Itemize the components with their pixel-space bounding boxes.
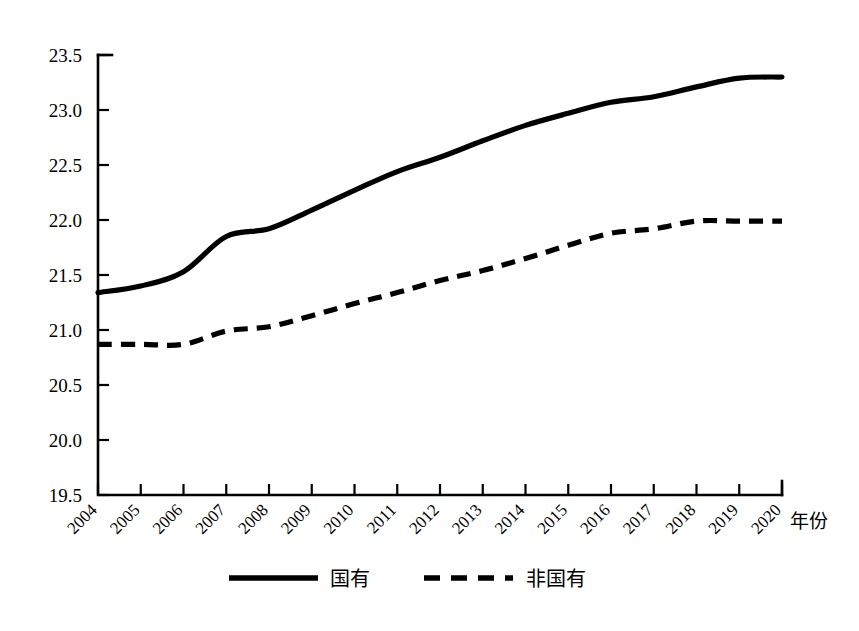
y-axis-tick-labels: 19.520.020.521.021.522.022.523.023.5 [49,45,82,506]
x-tick-label: 2014 [491,500,529,538]
x-axis-title: 年份 [790,511,828,532]
x-tick-label: 2019 [705,500,742,537]
y-tick-label: 23.5 [49,45,82,66]
x-tick-label: 2018 [662,500,699,537]
series-line-non-state-owned [98,221,782,346]
x-tick-label: 2007 [192,500,230,538]
y-tick-label: 23.0 [49,100,82,121]
x-tick-label: 2017 [619,500,657,538]
y-tick-label: 21.0 [49,320,82,341]
y-tick-label: 20.0 [49,430,82,451]
x-tick-label: 2013 [448,500,485,537]
x-tick-label: 2016 [576,500,613,537]
x-tick-label: 2020 [747,500,784,537]
y-tick-label: 21.5 [49,265,82,286]
line-chart-figure: 19.520.020.521.021.522.022.523.023.5 200… [0,0,859,631]
legend-label-non-state-owned: 非国有 [526,568,586,590]
x-tick-label: 2012 [405,500,442,537]
x-tick-label: 2005 [106,500,143,537]
x-tick-label: 2015 [534,500,571,537]
series-line-state-owned [98,77,782,293]
x-tick-label: 2006 [149,500,186,537]
x-tick-label: 2011 [363,500,400,537]
y-axis-ticks [98,55,109,495]
axis-frame-path [98,55,782,495]
chart-canvas: 19.520.020.521.021.522.022.523.023.5 200… [0,0,859,631]
y-tick-label: 19.5 [49,485,82,506]
x-axis-ticks [98,484,782,495]
y-tick-label: 22.0 [49,210,82,231]
x-axis-tick-labels: 2004200520062007200820092010201120122013… [63,500,784,538]
legend-label-state-owned: 国有 [330,568,370,590]
y-tick-label: 22.5 [49,155,82,176]
data-series-group [98,77,782,345]
x-tick-label: 2009 [277,500,314,537]
chart-legend: 国有 非国有 [229,568,586,590]
x-tick-label: 2008 [234,500,271,537]
y-tick-label: 20.5 [49,375,82,396]
x-tick-label: 2010 [320,500,357,537]
plot-frame [98,55,782,495]
